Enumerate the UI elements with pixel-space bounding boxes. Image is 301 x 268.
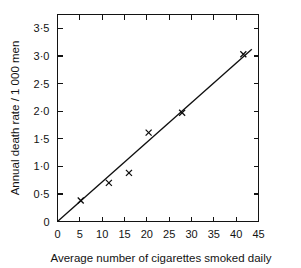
- x-tick-label-0: 0: [54, 228, 60, 240]
- x-tick-label-6: 30: [185, 228, 197, 240]
- x-axis-title: Average number of cigarettes smoked dail…: [51, 252, 272, 264]
- x-tick-label-4: 20: [141, 228, 153, 240]
- x-tick-label-8: 40: [230, 228, 242, 240]
- x-tick-label-5: 25: [163, 228, 175, 240]
- y-tick-label-4: 2·0: [34, 105, 50, 117]
- x-tick-label-2: 10: [96, 228, 108, 240]
- scatter-chart-figure: 051015202530354045 00·51·01·52·02·53·03·…: [0, 0, 301, 268]
- y-tick-label-3: 1·5: [34, 133, 50, 145]
- x-tick-label-1: 5: [77, 228, 83, 240]
- x-tick-label-9: 45: [252, 228, 264, 240]
- plot-canvas: 051015202530354045 00·51·01·52·02·53·03·…: [0, 0, 301, 268]
- y-tick-label-0: 0: [43, 216, 49, 228]
- x-tick-label-3: 15: [118, 228, 130, 240]
- y-axis-title: Annual death rate / 1 000 men: [9, 41, 21, 196]
- y-tick-label-1: 0·5: [34, 188, 50, 200]
- y-tick-label-6: 3·0: [34, 50, 50, 62]
- y-tick-label-5: 2·5: [34, 78, 50, 90]
- y-tick-label-7: 3·5: [34, 22, 50, 34]
- x-tick-label-7: 35: [208, 228, 220, 240]
- y-tick-label-2: 1·0: [34, 160, 50, 172]
